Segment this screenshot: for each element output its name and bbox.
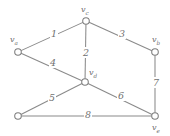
vertex-label-vb: vb	[152, 36, 160, 46]
edge-weight-label: 3	[118, 29, 126, 39]
edge-weight-label: 4	[49, 58, 57, 68]
vertex-label-vd: vd	[89, 69, 97, 79]
graph-node-va	[15, 49, 22, 56]
edge-layer	[21, 22, 155, 116]
vertex-label-vc: vc	[81, 6, 89, 16]
vertex-label-subscript: a	[15, 40, 18, 46]
edge-weight-label: 6	[117, 91, 125, 101]
vertex-label-subscript: c	[86, 10, 89, 16]
edge-weight-label: 7	[152, 78, 160, 88]
graph-node-vc	[83, 18, 90, 25]
edge-weight-label: 2	[82, 48, 90, 58]
edge-weight-label: 8	[84, 110, 92, 120]
edge-weight-label: 5	[48, 93, 56, 103]
vertex-label-subscript: d	[94, 73, 98, 79]
vertex-label-subscript: e	[157, 128, 160, 134]
vertex-label-subscript: b	[157, 40, 161, 46]
edge-weight-label: 1	[50, 29, 58, 39]
vertex-label-ve: ve	[152, 124, 160, 134]
vertex-label-va: va	[10, 36, 18, 46]
graph-node-vd	[82, 79, 89, 86]
graph-node-ve	[152, 113, 159, 120]
node-layer	[15, 18, 159, 120]
graph-node-vg	[15, 113, 22, 120]
graph-node-vb	[152, 49, 159, 56]
graph-diagram: 12345678vcvavbvdve	[0, 0, 170, 136]
